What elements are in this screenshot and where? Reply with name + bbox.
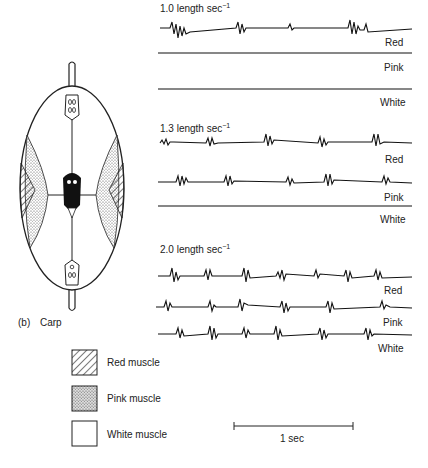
speed-label-2: 1.3 length sec−1 (160, 122, 230, 134)
trace-label-pink: Pink (384, 62, 403, 73)
speed-text: 1.3 length sec (160, 123, 222, 134)
trace-label-white: White (378, 343, 404, 354)
scale-bar: 1 sec (233, 420, 355, 450)
trace-label-pink: Pink (383, 317, 402, 328)
speed-exponent: −1 (222, 243, 230, 250)
pink-muscle-swatch (72, 386, 97, 411)
fish-name: Carp (40, 317, 62, 328)
trace-label-white: White (380, 214, 406, 225)
speed-text: 1.0 length sec (160, 3, 222, 14)
speed-exponent: −1 (222, 2, 230, 9)
speed-label-1: 1.0 length sec−1 (160, 2, 230, 14)
carp-cross-section-diagram (0, 0, 150, 340)
trace-label-red: Red (385, 37, 403, 48)
scale-bar-label: 1 sec (280, 433, 304, 444)
legend-label-white: White muscle (107, 429, 167, 440)
trace-label-red: Red (385, 154, 403, 165)
legend-label-pink: Pink muscle (107, 393, 161, 404)
trace-label-red: Red (384, 285, 402, 296)
white-muscle-swatch (72, 421, 97, 446)
speed-text: 2.0 length sec (160, 244, 222, 255)
legend: Red muscle Pink muscle White muscle (70, 345, 230, 465)
legend-label-red: Red muscle (107, 357, 160, 368)
speed-label-3: 2.0 length sec−1 (160, 243, 230, 255)
trace-label-pink: Pink (384, 192, 403, 203)
speed-exponent: −1 (222, 122, 230, 129)
panel-label: (b) (18, 317, 30, 328)
red-muscle-swatch (72, 350, 97, 375)
trace-label-white: White (380, 97, 406, 108)
